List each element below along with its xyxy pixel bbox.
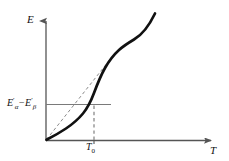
energy-curve: [47, 14, 156, 140]
energy-vs-temperature-figure: E T T0 E′α−E′β: [0, 0, 229, 161]
tangent-guide-dashed-line: [47, 57, 113, 140]
x-tick-label-t0: T0: [86, 142, 95, 155]
x-axis-label: T: [210, 145, 216, 156]
t0-subscript: 0: [92, 147, 96, 155]
y-axis-label: E: [27, 14, 34, 25]
energy-level-label: E′α−E′β: [7, 97, 36, 111]
plot-canvas: [0, 0, 229, 161]
e-beta-subscript: β: [33, 103, 37, 111]
